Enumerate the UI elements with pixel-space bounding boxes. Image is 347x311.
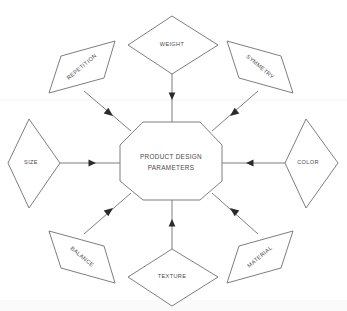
node-material[interactable]: MATERIAL [227,231,293,283]
connector-symmetry [212,91,258,131]
connector-size [60,160,120,167]
arrow-head-texture [169,219,176,227]
node-weight[interactable]: WEIGHT [128,16,218,74]
node-repetition[interactable]: REPETITION [49,41,115,93]
node-symmetry[interactable]: SYMMETRY [227,41,293,93]
connector-color [222,160,285,167]
connector-material [212,193,258,234]
center-node-shape [120,122,222,200]
connector-texture [169,200,176,249]
scan-band-upper [0,99,347,101]
node-texture-label: TEXTURE [158,273,187,279]
node-texture[interactable]: TEXTURE [128,249,218,306]
center-node-label-line2: PARAMETERS [148,164,195,171]
connector-balance [84,193,131,234]
center-node-label-line1: PRODUCT DESIGN [140,153,202,160]
node-weight-label: WEIGHT [160,41,185,47]
arrow-head-weight [169,93,176,101]
arrow-head-material [230,208,239,216]
node-size-label: SIZE [24,159,38,165]
connector-repetition [84,91,131,131]
node-color[interactable]: COLOR [285,119,338,208]
node-color-label: COLOR [297,159,319,165]
diagram-svg: PRODUCT DESIGN PARAMETERS WEIGHT TEXTURE… [0,0,347,311]
concept-diagram-canvas: PRODUCT DESIGN PARAMETERS WEIGHT TEXTURE… [0,0,347,311]
connector-weight [169,74,176,122]
arrow-head-size [89,160,97,167]
node-balance[interactable]: BALANCE [49,231,115,283]
arrow-head-color [246,160,254,167]
center-node[interactable]: PRODUCT DESIGN PARAMETERS [120,122,222,200]
node-size[interactable]: SIZE [8,119,60,208]
